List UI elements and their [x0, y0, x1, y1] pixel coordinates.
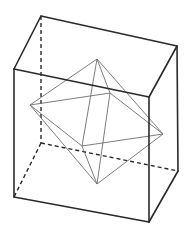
cube-hidden-edge	[14, 143, 41, 197]
octahedron-edge	[97, 59, 163, 134]
cube-hidden-edge	[41, 143, 178, 171]
cube-edge	[149, 46, 177, 97]
octahedron-edges	[30, 59, 163, 184]
diagram-svg	[0, 0, 190, 237]
octahedron-in-cube-diagram	[0, 0, 190, 237]
octahedron-edge	[82, 59, 97, 146]
octahedron-edge	[110, 93, 163, 134]
cube-edge	[149, 171, 178, 222]
octahedron-edge	[82, 134, 163, 146]
octahedron-edge	[82, 146, 97, 184]
octahedron-edge	[30, 59, 97, 105]
cube-hidden-edges	[14, 16, 178, 197]
cube-visible-edges	[14, 16, 178, 222]
cube-edge	[14, 16, 41, 69]
cube-edge	[41, 16, 177, 46]
cube-edge	[177, 46, 178, 171]
cube-edge	[14, 69, 149, 97]
octahedron-edge	[97, 93, 110, 184]
octahedron-edge	[30, 105, 82, 146]
octahedron-edge	[97, 134, 163, 184]
octahedron-edge	[30, 93, 110, 105]
cube-edge	[14, 197, 149, 222]
